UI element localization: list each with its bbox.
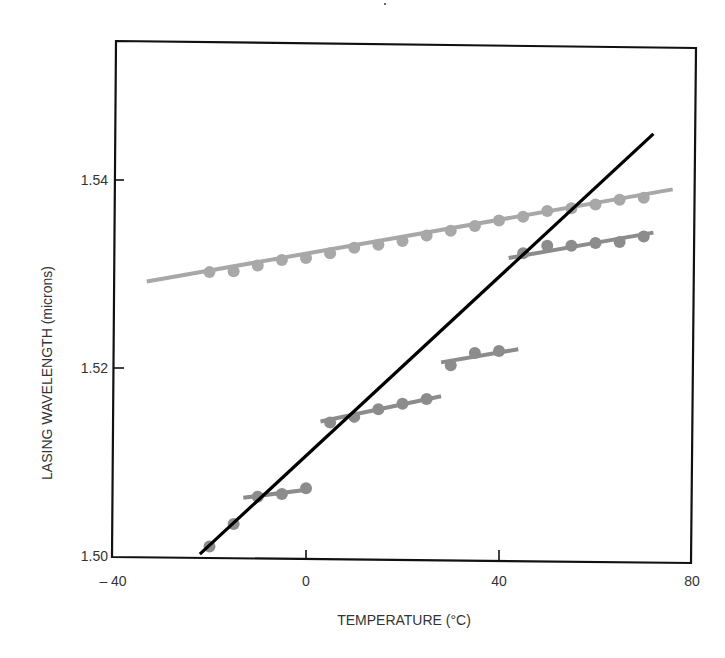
data-point (324, 417, 336, 429)
data-point (324, 247, 336, 259)
data-point (541, 240, 553, 252)
data-point (445, 225, 457, 237)
data-point (541, 205, 553, 217)
series-gain-peak-line (200, 134, 654, 554)
data-point (614, 236, 626, 248)
data-point (397, 235, 409, 247)
axis-ticks: – 40040801.501.521.54 (81, 172, 700, 589)
plot-series (147, 134, 673, 554)
x-tick-label: – 40 (99, 573, 126, 589)
series-upper-tuning-line (147, 189, 673, 281)
x-tick-label: 0 (302, 573, 310, 589)
series-mode-hop-segment-3 (320, 393, 441, 429)
data-point (348, 242, 360, 254)
data-point (493, 214, 505, 226)
x-tick-label: 40 (491, 573, 507, 589)
data-point (590, 198, 602, 210)
data-point (565, 240, 577, 252)
fit-line (509, 233, 654, 258)
y-tick-label: 1.52 (81, 360, 108, 376)
data-point (276, 488, 288, 500)
data-point (638, 230, 650, 242)
data-point (614, 194, 626, 206)
data-point (469, 220, 481, 232)
data-point (469, 347, 481, 359)
data-point (276, 254, 288, 266)
x-tick-label: 80 (684, 573, 700, 589)
data-point (300, 252, 312, 264)
series-mode-hop-segment-5 (509, 230, 654, 259)
y-axis-title: LASING WAVELENGTH (microns) (39, 266, 55, 480)
data-point (493, 345, 505, 357)
data-point (372, 403, 384, 415)
y-tick-label: 1.54 (81, 172, 108, 188)
data-point (421, 229, 433, 241)
data-point (590, 237, 602, 249)
plot-frame (112, 41, 696, 563)
data-point (372, 239, 384, 251)
chart: – 40040801.501.521.54 TEMPERATURE (°C) L… (0, 0, 725, 658)
data-point (397, 398, 409, 410)
data-point (638, 192, 650, 204)
data-point (228, 265, 240, 277)
data-point (445, 359, 457, 371)
data-point (421, 393, 433, 405)
data-point (300, 482, 312, 494)
x-axis-title: TEMPERATURE (°C) (337, 612, 471, 628)
series-mode-hop-segment-4 (441, 345, 518, 371)
data-point (204, 266, 216, 278)
scan-speck (384, 3, 386, 5)
gain-peak-line (200, 134, 654, 554)
series-mode-hop-segment-2 (243, 482, 312, 502)
data-point (517, 211, 529, 223)
plot-border (112, 41, 696, 563)
data-point (252, 260, 264, 272)
y-tick-label: 1.50 (81, 548, 108, 564)
